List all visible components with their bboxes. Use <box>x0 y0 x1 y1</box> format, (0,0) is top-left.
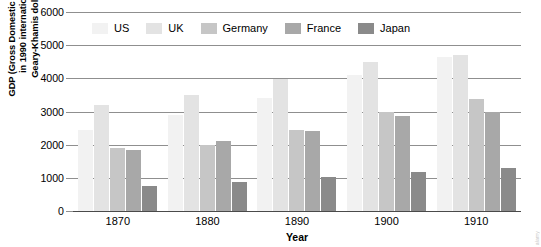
bar-group-1870 <box>73 12 163 211</box>
bar-uk-1890 <box>273 79 288 211</box>
bar-us-1900 <box>347 75 362 211</box>
bar-france-1900 <box>395 116 410 211</box>
y-tick-mark-3000 <box>66 112 73 113</box>
x-tick-label-1910: 1910 <box>464 215 488 227</box>
bar-japan-1910 <box>501 168 516 211</box>
bar-group-1910 <box>431 12 521 211</box>
legend-item-uk[interactable]: UK <box>146 22 183 34</box>
y-tick-label-1000: 1000 <box>18 172 64 184</box>
y-tick-label-3000: 3000 <box>18 106 64 118</box>
legend-label-germany: Germany <box>223 22 268 34</box>
y-tick-label-6000: 6000 <box>18 6 64 18</box>
bar-germany-1900 <box>379 112 394 212</box>
y-tick-label-4000: 4000 <box>18 72 64 84</box>
bar-uk-1900 <box>363 62 378 211</box>
bar-france-1880 <box>216 141 231 211</box>
y-tick-mark-6000 <box>66 12 73 13</box>
legend-label-france: France <box>307 22 341 34</box>
bar-us-1910 <box>437 57 452 211</box>
legend-label-us: US <box>114 22 129 34</box>
legend-item-france[interactable]: France <box>285 22 341 34</box>
y-tick-label-2000: 2000 <box>18 139 64 151</box>
bar-uk-1910 <box>453 55 468 211</box>
x-tick-label-1890: 1890 <box>285 215 309 227</box>
watermark: alamy <box>534 231 540 245</box>
bar-germany-1910 <box>469 99 484 211</box>
bar-japan-1890 <box>321 177 336 211</box>
bar-germany-1870 <box>110 148 125 211</box>
y-tick-mark-0 <box>66 211 73 212</box>
legend: USUKGermanyFranceJapan <box>92 22 427 34</box>
x-axis-title: Year <box>73 231 521 243</box>
plot-area <box>73 12 521 211</box>
y-axis-title-line-1: GDP (Gross Domestic Product) <box>7 0 18 96</box>
bar-us-1890 <box>257 98 272 211</box>
legend-swatch-uk <box>146 23 162 34</box>
x-tick-label-1900: 1900 <box>374 215 398 227</box>
legend-item-us[interactable]: US <box>92 22 129 34</box>
bar-france-1910 <box>485 112 500 212</box>
bar-group-1890 <box>252 12 342 211</box>
bar-japan-1900 <box>411 172 426 211</box>
y-tick-mark-2000 <box>66 145 73 146</box>
gridline-0 <box>73 211 521 212</box>
bar-france-1870 <box>126 150 141 211</box>
bar-uk-1880 <box>184 95 199 211</box>
bar-france-1890 <box>305 131 320 211</box>
legend-item-japan[interactable]: Japan <box>358 22 410 34</box>
y-tick-label-0: 0 <box>18 205 64 217</box>
bar-germany-1890 <box>289 130 304 211</box>
bar-uk-1870 <box>94 105 109 211</box>
x-tick-label-1880: 1880 <box>195 215 219 227</box>
y-tick-mark-4000 <box>66 78 73 79</box>
legend-swatch-germany <box>201 23 217 34</box>
y-tick-mark-1000 <box>66 178 73 179</box>
legend-swatch-france <box>285 23 301 34</box>
y-tick-mark-5000 <box>66 45 73 46</box>
bar-us-1880 <box>168 115 183 211</box>
bar-group-1900 <box>342 12 432 211</box>
legend-swatch-us <box>92 23 108 34</box>
legend-swatch-japan <box>358 23 374 34</box>
legend-label-uk: UK <box>168 22 183 34</box>
x-tick-label-1870: 1870 <box>106 215 130 227</box>
y-tick-label-5000: 5000 <box>18 39 64 51</box>
bar-japan-1870 <box>142 186 157 211</box>
bar-germany-1880 <box>200 145 215 211</box>
bar-chart: GDP (Gross Domestic Product) in 1990 int… <box>0 0 541 247</box>
bar-japan-1880 <box>232 182 247 211</box>
bar-group-1880 <box>163 12 253 211</box>
bars-layer <box>73 12 521 211</box>
legend-item-germany[interactable]: Germany <box>201 22 268 34</box>
legend-label-japan: Japan <box>380 22 410 34</box>
bar-us-1870 <box>78 130 93 211</box>
